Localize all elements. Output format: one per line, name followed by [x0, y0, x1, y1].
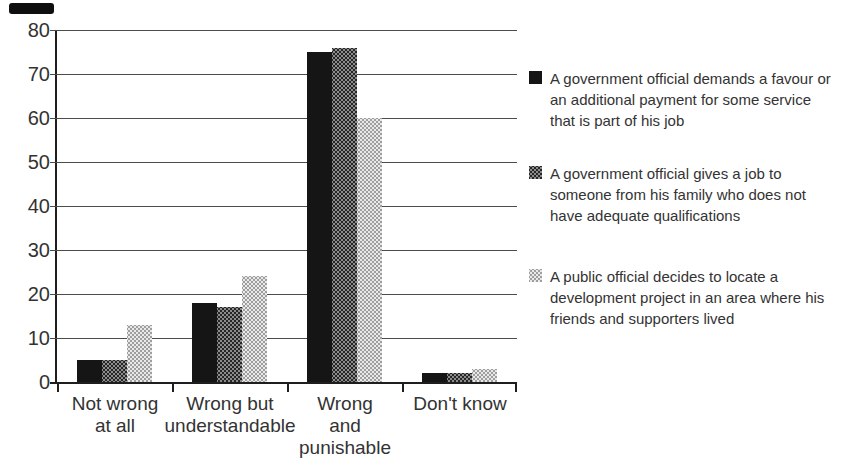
gridline-40 — [50, 206, 517, 207]
scan-artifact-mark — [9, 3, 54, 14]
bar-series1-cat1 — [217, 307, 242, 382]
legend-label: A public official decides to locate a de… — [550, 266, 835, 329]
bar-series0-cat1 — [192, 303, 217, 382]
y-tick-label-0: 0 — [10, 372, 50, 393]
bar-series0-cat0 — [77, 360, 102, 382]
gridline-30 — [50, 250, 517, 251]
x-axis-tick — [287, 384, 289, 392]
bar-series0-cat3 — [422, 373, 447, 382]
y-tick-label-20: 20 — [10, 284, 50, 305]
bar-series0-cat2 — [307, 52, 332, 382]
plot-area — [57, 31, 517, 383]
y-tick-label-70: 70 — [10, 64, 50, 85]
gridline-10 — [50, 338, 517, 339]
x-axis-tick — [57, 384, 59, 392]
gridline-70 — [50, 74, 517, 75]
bar-series2-cat0 — [127, 325, 152, 382]
y-tick-label-10: 10 — [10, 328, 50, 349]
bar-series2-cat1 — [242, 276, 267, 382]
gridline-50 — [50, 162, 517, 163]
gridline-80 — [50, 30, 517, 31]
y-axis-line — [55, 31, 57, 384]
bar-series1-cat0 — [102, 360, 127, 382]
legend-item-project-location: A public official decides to locate a de… — [529, 266, 835, 329]
x-axis-tick — [402, 384, 404, 392]
x-axis-tick — [515, 384, 517, 392]
y-tick-label-30: 30 — [10, 240, 50, 261]
y-tick-label-60: 60 — [10, 108, 50, 129]
x-category-label-3: Don't know — [385, 393, 535, 415]
y-tick-label-50: 50 — [10, 152, 50, 173]
legend-label: A government official demands a favour o… — [550, 68, 835, 131]
y-axis-zero-tick — [50, 382, 57, 384]
bar-chart-figure: 01020304050607080 Not wrong at allWrong … — [0, 0, 843, 470]
y-tick-label-80: 80 — [10, 20, 50, 41]
legend-label: A government official gives a job to som… — [550, 163, 835, 226]
gridline-20 — [50, 294, 517, 295]
legend-item-family-job: A government official gives a job to som… — [529, 163, 835, 226]
legend-item-demands-payment: A government official demands a favour o… — [529, 68, 835, 131]
x-axis-tick — [172, 384, 174, 392]
gridline-60 — [50, 118, 517, 119]
legend-swatch-black-icon — [529, 71, 542, 84]
legend-swatch-dark-gray-icon — [529, 166, 542, 179]
bar-series1-cat3 — [447, 373, 472, 382]
bar-series1-cat2 — [332, 48, 357, 382]
y-tick-label-40: 40 — [10, 196, 50, 217]
legend-swatch-light-gray-icon — [529, 269, 542, 282]
bar-series2-cat3 — [472, 369, 497, 382]
bar-series2-cat2 — [357, 118, 382, 382]
